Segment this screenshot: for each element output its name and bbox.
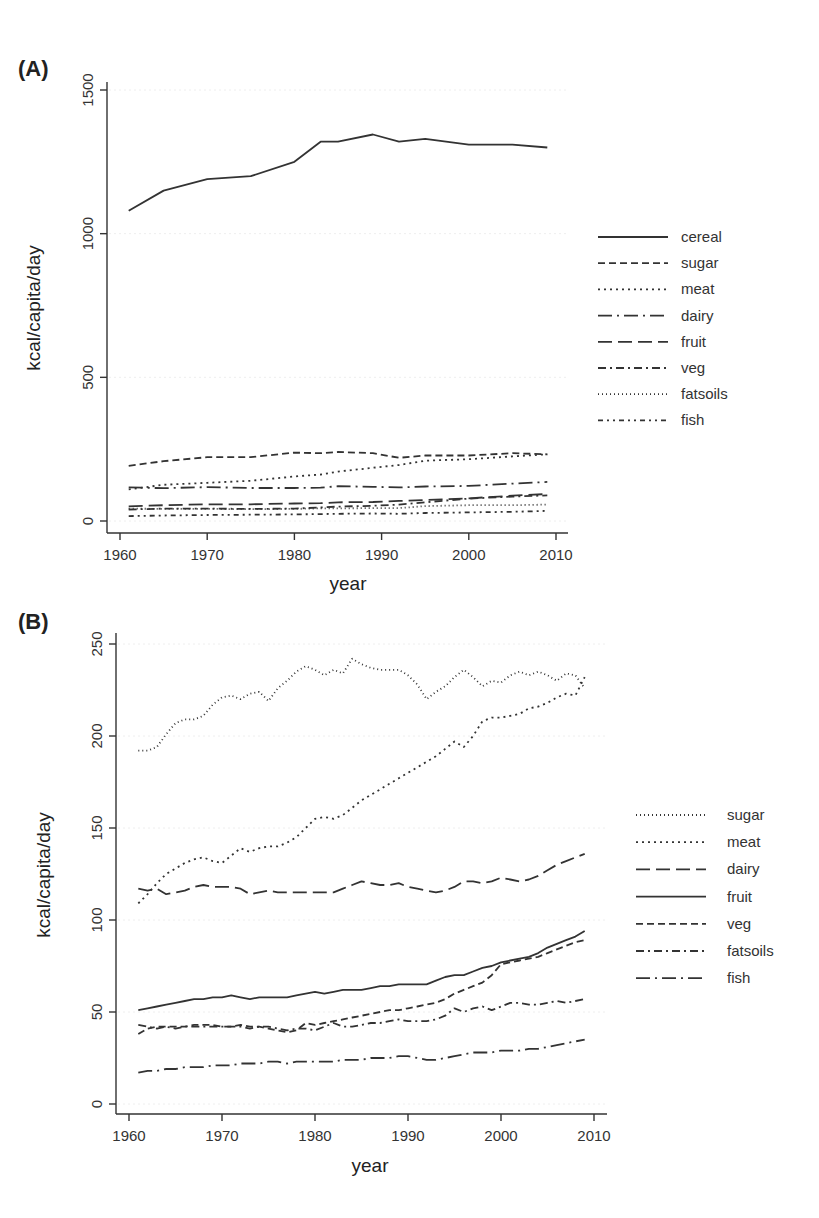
- y-tick-label: 100: [88, 907, 105, 932]
- y-tick-label: 150: [88, 815, 105, 840]
- panel-b-gridlines: [118, 644, 607, 1104]
- x-tick-label: 2000: [452, 546, 485, 563]
- legend-label-fatsoils: fatsoils: [681, 385, 728, 402]
- y-tick-label: 1500: [79, 73, 96, 106]
- series-line-veg: [138, 940, 584, 1034]
- legend-label-meat: meat: [727, 833, 761, 850]
- panel-a-y-axis-title: kcal/capita/day: [23, 245, 44, 371]
- panel-a-legend: cerealsugarmeatdairyfruitvegfatsoilsfish: [598, 228, 728, 428]
- panel-b-x-axis-title: year: [352, 1155, 390, 1176]
- series-line-fruit: [129, 494, 548, 506]
- panel-a-y-ticks: 050010001500: [79, 73, 107, 525]
- x-tick-label: 1960: [112, 1127, 145, 1144]
- series-line-cereal: [129, 135, 548, 211]
- panel-b-x-ticks: 196019701980199020002010: [112, 1114, 610, 1144]
- legend-label-cereal: cereal: [681, 228, 722, 245]
- y-tick-label: 250: [88, 631, 105, 656]
- legend-label-sugar: sugar: [681, 254, 719, 271]
- series-line-dairy: [129, 482, 548, 488]
- y-tick-label: 200: [88, 723, 105, 748]
- legend-label-fatsoils: fatsoils: [727, 942, 774, 959]
- series-line-sugar: [129, 452, 548, 466]
- panel-a-x-ticks: 196019701980199020002010: [103, 533, 572, 563]
- panel-b-label: (B): [18, 609, 49, 634]
- series-line-fish: [129, 511, 548, 516]
- x-tick-label: 1970: [205, 1127, 238, 1144]
- x-tick-label: 1980: [278, 546, 311, 563]
- legend-label-fruit: fruit: [681, 333, 707, 350]
- y-tick-label: 0: [79, 517, 96, 525]
- legend-label-sugar: sugar: [727, 806, 765, 823]
- x-tick-label: 2010: [577, 1127, 610, 1144]
- series-line-fish: [138, 1040, 584, 1073]
- panel-a-x-axis-title: year: [330, 573, 368, 594]
- legend-label-veg: veg: [681, 359, 705, 376]
- legend-label-meat: meat: [681, 280, 715, 297]
- legend-label-veg: veg: [727, 915, 751, 932]
- x-tick-label: 1960: [103, 546, 136, 563]
- x-tick-label: 1980: [298, 1127, 331, 1144]
- x-tick-label: 1970: [191, 546, 224, 563]
- series-line-meat: [138, 677, 584, 903]
- panel-a-series: [129, 135, 548, 517]
- series-line-fruit: [138, 931, 584, 1010]
- x-tick-label: 2010: [539, 546, 572, 563]
- panel-b-y-axis-title: kcal/capita/day: [33, 812, 54, 938]
- y-tick-label: 50: [88, 1004, 105, 1021]
- panel-a-label: (A): [18, 56, 49, 81]
- legend-label-fish: fish: [681, 411, 704, 428]
- y-tick-label: 500: [79, 365, 96, 390]
- panel-b-series: [138, 659, 584, 1073]
- panel-b-y-ticks: 050100150200250: [88, 631, 116, 1108]
- series-line-dairy: [138, 854, 584, 894]
- x-tick-label: 2000: [484, 1127, 517, 1144]
- panel-b-legend: sugarmeatdairyfruitvegfatsoilsfish: [636, 806, 774, 986]
- y-tick-label: 0: [88, 1100, 105, 1108]
- panel-b-chart: (B) 050100150200250 19601970198019902000…: [18, 609, 774, 1176]
- series-line-sugar: [138, 659, 584, 751]
- panel-a-chart: (A) 050010001500 19601970198019902000201…: [18, 56, 728, 594]
- legend-label-fish: fish: [727, 969, 750, 986]
- legend-label-fruit: fruit: [727, 888, 753, 905]
- y-tick-label: 1000: [79, 217, 96, 250]
- series-line-meat: [129, 454, 548, 489]
- legend-label-dairy: dairy: [681, 307, 714, 324]
- legend-label-dairy: dairy: [727, 860, 760, 877]
- figure: (A) 050010001500 19601970198019902000201…: [0, 0, 819, 1218]
- x-tick-label: 1990: [365, 546, 398, 563]
- x-tick-label: 1990: [391, 1127, 424, 1144]
